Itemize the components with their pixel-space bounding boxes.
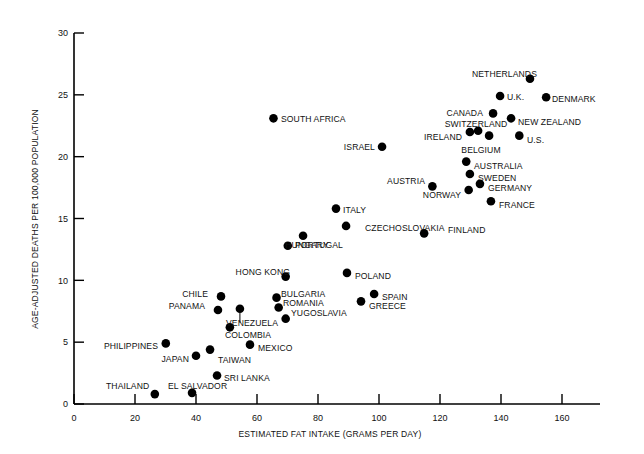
x-tick-label: 0 — [71, 413, 76, 423]
data-point-marker — [299, 232, 308, 241]
data-point-marker — [487, 197, 496, 206]
data-point-label: FINLAND — [448, 225, 485, 235]
data-point: ISRAEL — [344, 142, 387, 152]
x-tick-label: 40 — [191, 413, 201, 423]
x-tick-label: 100 — [371, 413, 386, 423]
data-point-marker — [485, 131, 494, 140]
data-point-marker — [476, 180, 485, 189]
data-point-label: BELGIUM — [461, 145, 500, 155]
data-point-label: NEW ZEALAND — [518, 117, 581, 127]
x-axis-title: ESTIMATED FAT INTAKE (GRAMS PER DAY) — [238, 429, 421, 439]
data-point: U.S. — [515, 131, 544, 145]
data-point-marker — [272, 293, 281, 302]
data-point-label: TAIWAN — [218, 355, 251, 365]
scatter-chart: 051015202530 020406080100120140160 ESTIM… — [0, 0, 644, 454]
data-point-label: ROMANIA — [283, 298, 324, 308]
x-axis-ticks: 020406080100120140160 — [71, 394, 569, 423]
data-point-label: AUSTRIA — [387, 176, 425, 186]
data-point-label: VENEZUELA — [226, 318, 278, 328]
data-point-label: ISRAEL — [344, 142, 375, 152]
data-point-label: THAILAND — [106, 381, 149, 391]
data-point: NEW ZEALAND — [507, 114, 581, 127]
data-point: U.K. — [496, 92, 524, 102]
data-point-marker — [462, 157, 471, 166]
data-point: YUGOSLAVIA — [281, 308, 347, 323]
data-point-label: SWEDEN — [478, 173, 516, 183]
data-point-label: GERMANY — [488, 183, 532, 193]
data-point-label: FRANCE — [499, 200, 535, 210]
data-point-label: MEXICO — [258, 343, 293, 353]
data-point-label: U.S. — [527, 135, 544, 145]
data-point: CANADA — [447, 108, 498, 118]
data-point-marker — [343, 269, 352, 278]
data-point-marker — [507, 114, 516, 123]
x-tick-label: 120 — [432, 413, 447, 423]
data-point-label: PHILIPPINES — [104, 341, 158, 351]
data-point: NETHERLANDS — [472, 69, 537, 83]
x-tick-label: 60 — [252, 413, 262, 423]
data-point-label: GREECE — [369, 301, 406, 311]
data-point: POLAND — [343, 269, 391, 281]
y-tick-label: 10 — [58, 276, 68, 286]
data-point: CZECHOSLOVAKIA — [342, 222, 445, 233]
data-point: SOUTH AFRICA — [269, 114, 346, 124]
data-point: ITALY — [332, 204, 367, 215]
data-point-marker — [542, 93, 551, 102]
data-point-marker — [357, 297, 366, 306]
data-point: PANAMA — [169, 301, 223, 314]
data-point: JAPAN — [161, 351, 200, 364]
data-point-label: POLAND — [355, 271, 391, 281]
data-point-marker — [192, 351, 201, 360]
data-point: PHILIPPINES — [104, 339, 170, 351]
data-point-marker — [217, 292, 226, 301]
data-point-marker — [151, 390, 160, 399]
data-point: FRANCE — [487, 197, 535, 210]
data-point-label: NORWAY — [423, 190, 461, 200]
data-point-label: DENMARK — [552, 94, 596, 104]
data-point-marker — [370, 290, 379, 299]
data-point-marker — [489, 109, 498, 118]
data-point: VENEZUELA — [226, 304, 278, 328]
data-point-label: CZECHOSLOVAKIA — [365, 223, 445, 233]
data-point-label: IRELAND — [424, 132, 462, 142]
data-point-label: HUNGARY — [285, 240, 329, 250]
data-point-label: U.K. — [507, 92, 524, 102]
data-point: IRELAND — [424, 128, 474, 142]
y-axis-ticks: 051015202530 — [58, 28, 84, 409]
x-tick-label: 140 — [493, 413, 508, 423]
data-point: CHILE — [182, 289, 225, 301]
data-point-label: PANAMA — [169, 301, 205, 311]
data-point: AUSTRIA — [387, 176, 437, 191]
data-point: MEXICO — [246, 340, 293, 353]
x-tick-label: 160 — [554, 413, 569, 423]
data-point: DENMARK — [542, 93, 596, 104]
y-tick-label: 30 — [58, 28, 68, 38]
chart-svg: 051015202530 020406080100120140160 ESTIM… — [0, 0, 644, 454]
data-point-marker — [378, 142, 387, 151]
y-tick-label: 0 — [63, 399, 68, 409]
data-point-marker — [246, 340, 255, 349]
data-point-marker — [332, 204, 341, 213]
data-point: HONG KONG — [236, 267, 291, 281]
y-tick-label: 15 — [58, 214, 68, 224]
data-point: TAIWAN — [206, 345, 251, 365]
data-point-marker — [515, 131, 524, 140]
data-point-marker — [464, 186, 473, 195]
data-point-label: HONG KONG — [236, 267, 291, 277]
data-point-marker — [274, 303, 283, 312]
y-tick-label: 25 — [58, 90, 68, 100]
data-point-marker — [206, 345, 215, 354]
x-tick-label: 20 — [130, 413, 140, 423]
data-point-marker — [420, 229, 429, 238]
data-point-label: CHILE — [182, 289, 208, 299]
data-point-label: ITALY — [343, 205, 366, 215]
data-point-marker — [269, 114, 278, 123]
data-point-marker — [162, 339, 171, 348]
data-point-label: AUSTRALIA — [474, 161, 523, 171]
data-point: THAILAND — [106, 381, 159, 398]
data-point-marker — [213, 371, 222, 380]
data-point-label: SOUTH AFRICA — [281, 114, 346, 124]
data-point-label: NETHERLANDS — [472, 69, 537, 79]
y-axis-title: AGE-ADJUSTED DEATHS PER 100,000 POPULATI… — [30, 109, 40, 329]
data-point-label: SRI LANKA — [224, 373, 270, 383]
